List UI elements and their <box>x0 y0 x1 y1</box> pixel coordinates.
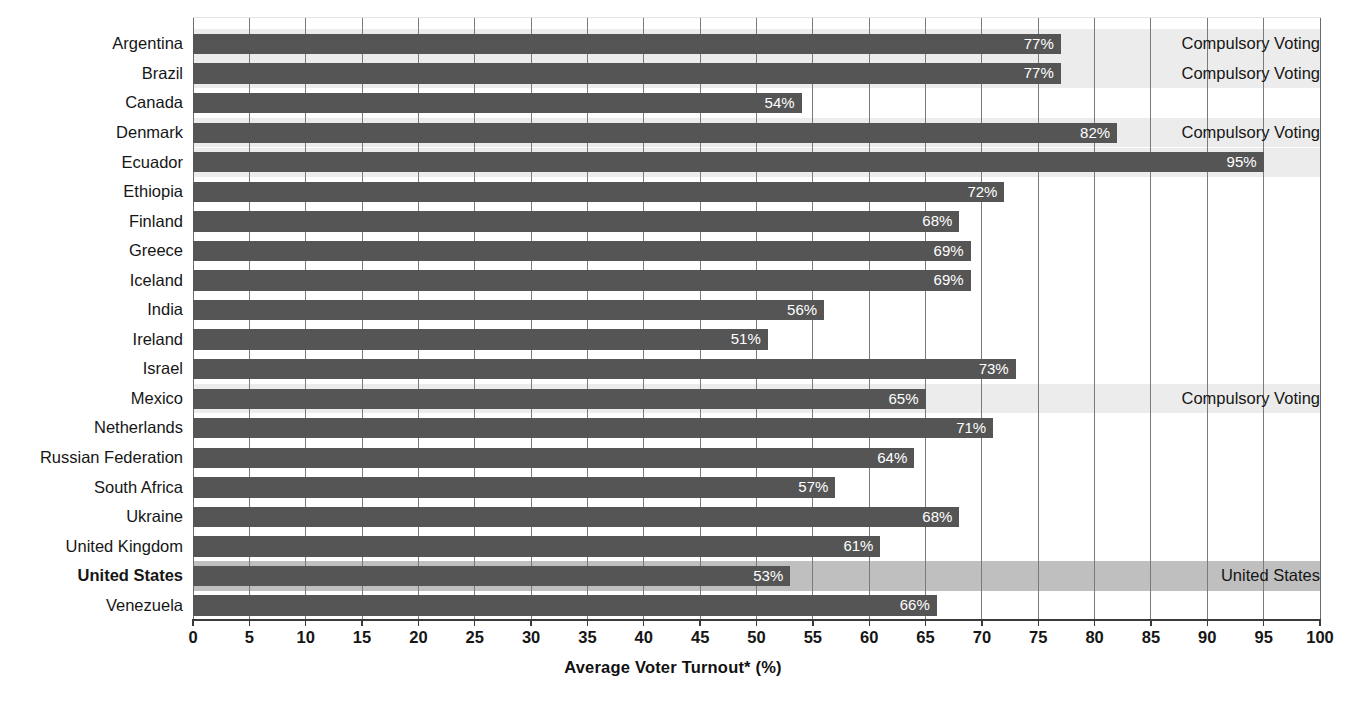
row-annotation-label: Compulsory Voting <box>1182 384 1321 414</box>
bar-value-label: 77% <box>193 34 1054 54</box>
bar-value-label: 71% <box>193 418 986 438</box>
bar-value-label: 73% <box>193 359 1009 379</box>
voter-turnout-bar-chart: ArgentinaBrazilCanadaDenmarkEcuadorEthio… <box>0 0 1346 705</box>
bar-value-label: 68% <box>193 211 952 231</box>
row-annotation-label: Compulsory Voting <box>1182 118 1321 148</box>
bar-value-label: 64% <box>193 448 907 468</box>
row-annotation-label: Compulsory Voting <box>1182 59 1321 89</box>
bar-value-label: 68% <box>193 507 952 527</box>
bar-value-label: 82% <box>193 123 1110 143</box>
bar-value-label: 53% <box>193 566 783 586</box>
bar-value-label: 56% <box>193 300 817 320</box>
bar-value-label: 72% <box>193 182 997 202</box>
chart-bars-layer: 77%Compulsory Voting77%Compulsory Voting… <box>0 0 1346 705</box>
bar-value-label: 54% <box>193 93 795 113</box>
bar-value-label: 57% <box>193 477 828 497</box>
bar-value-label: 95% <box>193 152 1257 172</box>
bar-value-label: 61% <box>193 536 873 556</box>
bar-value-label: 51% <box>193 329 761 349</box>
bar-value-label: 69% <box>193 270 964 290</box>
bar-value-label: 65% <box>193 389 919 409</box>
row-annotation-label: Compulsory Voting <box>1182 29 1321 59</box>
bar-value-label: 77% <box>193 63 1054 83</box>
row-annotation-label: United States <box>1221 561 1320 591</box>
bar-value-label: 66% <box>193 595 930 615</box>
bar-value-label: 69% <box>193 241 964 261</box>
